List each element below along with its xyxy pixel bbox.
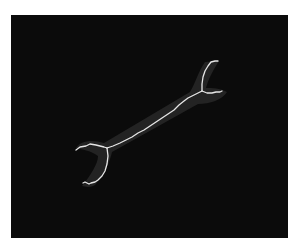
wrench-silhouette xyxy=(76,61,227,187)
wrench-figure xyxy=(0,0,297,250)
